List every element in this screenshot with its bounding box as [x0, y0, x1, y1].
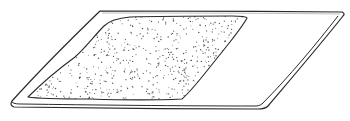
board-outline [11, 11, 344, 109]
illustration-canvas [0, 0, 350, 121]
board-drawing [0, 0, 350, 121]
board-edge-bottom [12, 102, 264, 106]
board-edge-right [262, 16, 338, 104]
stipple-fill [20, 13, 256, 102]
board-edge-top-inner [102, 13, 340, 14]
